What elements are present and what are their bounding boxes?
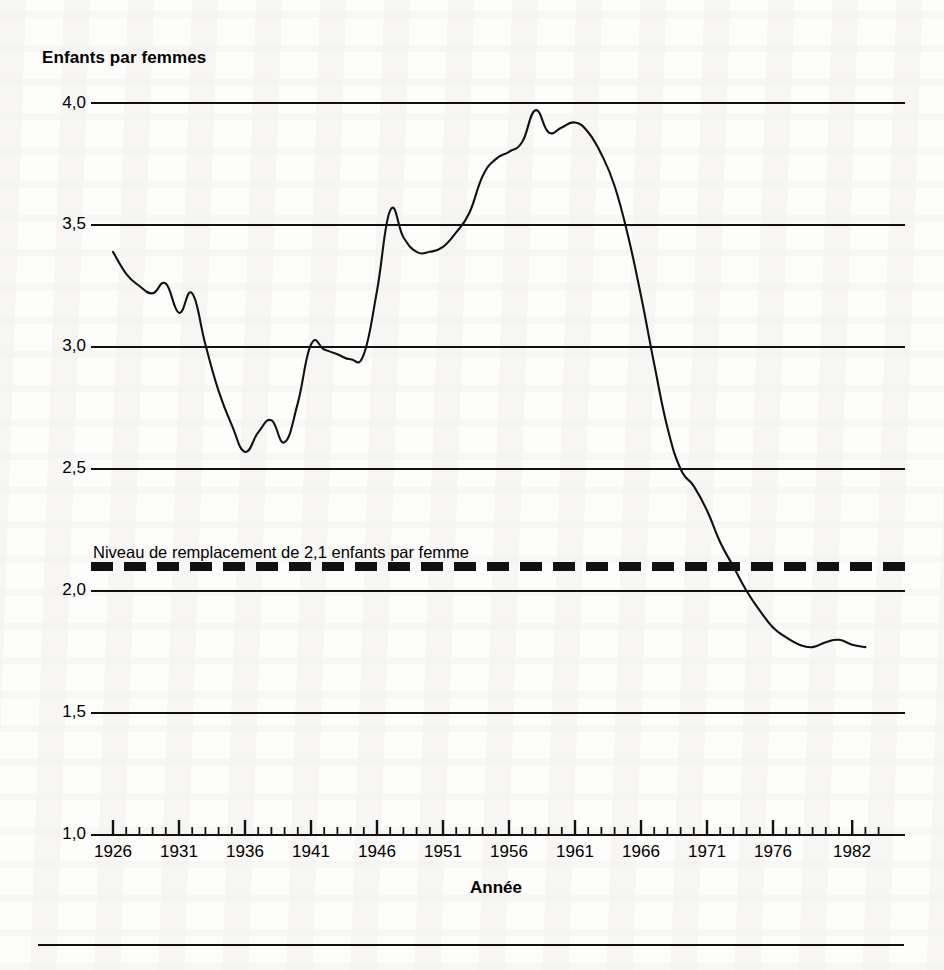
x-axis-group: [113, 820, 879, 835]
fertility-chart-figure: Enfants par femmes 4,0 3,5 3,0 2,5 2,0 1…: [0, 0, 944, 970]
plot-canvas: [0, 0, 944, 970]
page-bottom-rule: [38, 944, 904, 946]
gridlines-group: [91, 103, 905, 835]
